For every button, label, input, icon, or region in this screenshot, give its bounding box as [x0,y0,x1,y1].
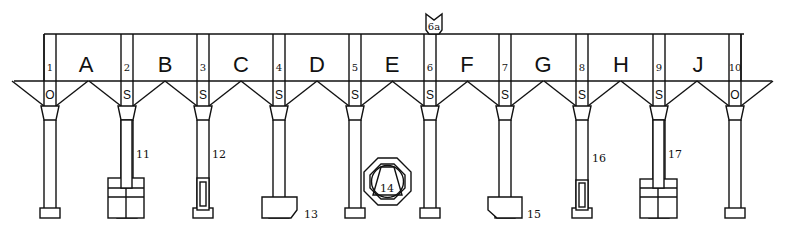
svg-text:6: 6 [427,62,433,73]
svg-text:11: 11 [136,148,150,161]
bay-j: J [693,52,704,77]
detail-15: 15 [488,197,541,221]
svg-text:O: O [730,88,739,102]
detail-12: 12 [197,148,226,210]
svg-text:14: 14 [380,182,394,195]
bay-letters: A B C D E F G H J [79,52,704,77]
svg-text:2: 2 [124,62,130,73]
detail-17: 17 [640,120,682,218]
svg-text:S: S [501,88,509,102]
svg-text:1: 1 [47,62,53,73]
svg-text:S: S [351,88,359,102]
detail-13: 13 [262,197,318,221]
detail-14: 14 [364,158,411,205]
bay-b: B [158,52,173,77]
marker-6a: 6a [426,14,442,34]
svg-text:S: S [426,88,434,102]
bay-f: F [460,52,473,77]
svg-text:7: 7 [502,62,508,73]
svg-text:S: S [578,88,586,102]
svg-text:8: 8 [579,62,585,73]
svg-text:16: 16 [592,152,606,165]
bay-a: A [79,52,94,77]
svg-text:3: 3 [200,62,206,73]
bay-h: H [613,52,629,77]
svg-text:S: S [199,88,207,102]
svg-text:6a: 6a [428,21,440,32]
svg-text:13: 13 [304,208,318,221]
bay-d: D [309,52,325,77]
svg-text:17: 17 [668,148,682,161]
detail-11: 11 [108,120,150,218]
svg-text:S: S [655,88,663,102]
svg-text:10: 10 [729,62,742,73]
bay-c: C [233,52,249,77]
structure-elevation-diagram: 6a A B C D E F G H J 1 2 3 4 5 6 7 8 9 1… [0,0,787,234]
svg-text:4: 4 [276,62,282,73]
bay-e: E [385,52,400,77]
svg-text:S: S [123,88,131,102]
svg-text:15: 15 [527,208,541,221]
bay-g: G [534,52,551,77]
svg-text:S: S [275,88,283,102]
svg-text:12: 12 [212,148,226,161]
svg-text:O: O [45,88,54,102]
detail-16: 16 [576,152,606,210]
svg-text:9: 9 [656,62,662,73]
svg-text:5: 5 [352,62,358,73]
